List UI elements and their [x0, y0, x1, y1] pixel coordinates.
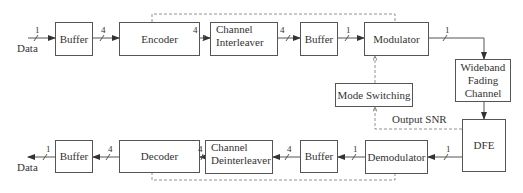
demodulator-block: Demodulator: [365, 140, 428, 174]
data-input-label: Data: [17, 42, 38, 54]
rx-output-buffer-label: Buffer: [60, 150, 89, 163]
data-output-label: Data: [17, 161, 38, 173]
encoder-label: Encoder: [141, 33, 178, 46]
tx-output-buffer-label: Buffer: [305, 33, 334, 46]
wideband-label-line3: Channel: [465, 87, 502, 100]
tx-input-buffer-label: Buffer: [60, 33, 89, 46]
bus-width-buffer-to-modulator: 1: [346, 25, 351, 35]
channel-interleaver-label-line2: Interleaver: [216, 36, 264, 49]
modulator-label: Modulator: [373, 33, 419, 46]
bus-width-interleaver-to-buffer: 4: [280, 25, 285, 35]
bus-width-data-in: 1: [35, 25, 40, 35]
channel-interleaver-block: ChannelInterleaver: [210, 22, 278, 56]
output-snr-label: Output SNR: [392, 113, 447, 125]
wideband-fading-channel-block: WidebandFadingChannel: [455, 59, 511, 102]
rx-output-buffer-block: Buffer: [55, 140, 93, 173]
mode-switching-block: Mode Switching: [335, 83, 413, 107]
bus-width-buffer-to-deinterleaver: 4: [287, 144, 292, 154]
bus-width-encoder-to-interleaver: 4: [193, 25, 198, 35]
block-diagram: Buffer Encoder ChannelInterleaver Buffer…: [0, 0, 523, 193]
bus-width-data-out: 1: [46, 144, 51, 154]
dfe-block: DFE: [462, 119, 506, 172]
dfe-label: DFE: [474, 139, 495, 152]
channel-deinterleaver-block: ChannelDeinterleaver: [205, 140, 273, 174]
bus-width-demodulator-to-buffer: 1: [353, 144, 358, 154]
channel-deinterleaver-label-line1: Channel: [211, 141, 248, 154]
bus-width-buffer-to-encoder: 4: [101, 25, 106, 35]
demodulator-label: Demodulator: [367, 151, 425, 164]
tx-output-buffer-block: Buffer: [300, 22, 338, 56]
bus-width-modulator-to-channel: 1: [445, 25, 450, 35]
rx-input-buffer-label: Buffer: [305, 150, 334, 163]
wideband-label-line1: Wideband: [461, 61, 506, 74]
mode-switching-label: Mode Switching: [337, 89, 410, 102]
decoder-block: Decoder: [119, 140, 200, 173]
rx-input-buffer-block: Buffer: [300, 140, 338, 173]
bus-width-deinterleaver-to-decoder: 4: [198, 144, 203, 154]
channel-deinterleaver-label-line2: Deinterleaver: [211, 154, 271, 167]
decoder-label: Decoder: [141, 150, 178, 163]
encoder-block: Encoder: [119, 22, 200, 56]
channel-interleaver-label-line1: Channel: [216, 23, 253, 36]
bus-width-decoder-to-buffer: 4: [108, 144, 113, 154]
bus-width-dfe-to-demodulator: 1: [446, 144, 451, 154]
modulator-block: Modulator: [364, 22, 429, 56]
wideband-label-line2: Fading: [468, 74, 499, 87]
tx-input-buffer-block: Buffer: [55, 22, 93, 56]
